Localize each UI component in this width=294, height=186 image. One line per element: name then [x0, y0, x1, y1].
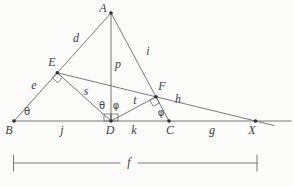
label-point-X: X [247, 123, 256, 137]
point-B-dot [12, 119, 16, 123]
label-segment-d: d [73, 31, 80, 45]
label-segment-p: p [114, 57, 121, 71]
label-segment-h: h [175, 92, 181, 106]
label-segment-t: t [133, 93, 137, 107]
point-labels: A B D C X E F [5, 1, 256, 137]
label-segment-e: e [31, 78, 37, 92]
right-angle-marks [53, 73, 160, 121]
label-point-D: D [105, 123, 115, 137]
label-segment-f: f [127, 155, 132, 169]
label-point-B: B [5, 123, 13, 137]
label-point-E: E [47, 55, 56, 69]
diagram-canvas: f A B D C X E F d e i p s [0, 0, 294, 186]
right-angle-mark-F [150, 97, 159, 106]
label-segment-k: k [131, 123, 137, 137]
point-A-dot [109, 11, 113, 15]
geometry-figure: f A B D C X E F d e i p s [0, 0, 294, 186]
angle-labels: θ θ φ φ [24, 100, 165, 118]
label-point-C: C [166, 123, 175, 137]
label-angle-phi-at-D: φ [113, 100, 120, 111]
lines [14, 13, 291, 126]
point-F-dot [154, 95, 158, 99]
label-point-A: A [98, 1, 107, 15]
dimension-f: f [14, 155, 258, 171]
label-point-F: F [157, 79, 166, 93]
label-angle-theta-at-B: θ [24, 106, 30, 117]
label-segment-i: i [146, 44, 149, 58]
label-segment-s: s [84, 84, 89, 98]
label-segment-g: g [209, 123, 215, 137]
point-E-dot [56, 71, 60, 75]
line-BA [14, 13, 111, 121]
label-angle-phi-at-C: φ [158, 107, 165, 118]
label-segment-j: j [58, 123, 64, 137]
label-angle-theta-at-D: θ [99, 100, 105, 111]
